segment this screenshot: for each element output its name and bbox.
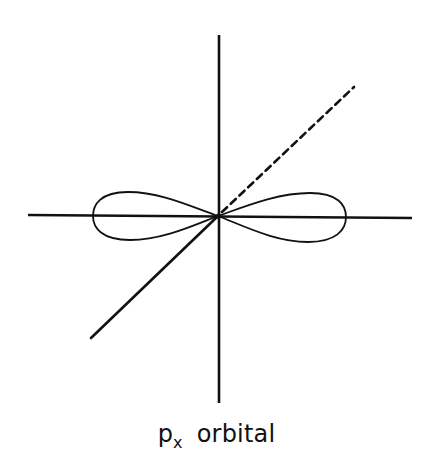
orbital-symbol: px — [158, 420, 183, 452]
orbital-caption: pxorbital — [0, 420, 433, 452]
px-orbital-diagram — [0, 0, 433, 459]
origin-point — [216, 213, 221, 218]
diagonal-axis-front — [91, 216, 218, 338]
orbital-symbol-main: p — [158, 420, 173, 448]
diagonal-axis-back-dashed — [222, 87, 354, 212]
orbital-symbol-subscript: x — [173, 433, 183, 452]
orbital-word: orbital — [197, 420, 276, 448]
